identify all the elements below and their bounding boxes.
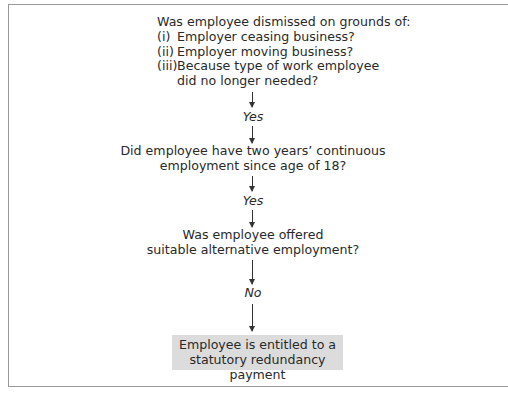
option-1-text: Employer ceasing business? (177, 30, 355, 45)
option-1-number: (i) (157, 30, 177, 45)
down-arrow-icon (252, 92, 253, 107)
question-3-line-2: suitable alternative employment? (0, 243, 506, 258)
result-line-2: statutory redundancy payment (172, 353, 343, 383)
down-arrow-icon (252, 304, 253, 331)
down-arrow-icon (252, 210, 253, 227)
down-arrow-icon (252, 260, 253, 284)
option-3: (iii) Because type of work employee (157, 59, 411, 74)
answer-3-label: No (0, 286, 506, 301)
result-box: Employee is entitled to a statutory redu… (172, 335, 343, 370)
option-3-number: (iii) (157, 59, 177, 74)
answer-1-label: Yes (0, 110, 506, 125)
option-3-continuation: did no longer needed? (177, 74, 318, 89)
option-indent-spacer (157, 74, 177, 89)
question-3-line-1: Was employee offered (0, 228, 506, 243)
answer-2-label: Yes (0, 194, 506, 209)
down-arrow-icon (252, 126, 253, 143)
option-3-continuation-row: did no longer needed? (157, 74, 411, 89)
option-2: (ii) Employer moving business? (157, 45, 411, 60)
option-2-text: Employer moving business? (177, 45, 353, 60)
option-3-text: Because type of work employee (177, 59, 379, 74)
question-1: Was employee dismissed on grounds of: (i… (157, 15, 411, 89)
question-2-line-1: Did employee have two years’ continuous (0, 144, 506, 159)
question-2-line-2: employment since age of 18? (0, 159, 506, 174)
option-2-number: (ii) (157, 45, 177, 60)
down-arrow-icon (252, 176, 253, 191)
result-line-1: Employee is entitled to a (172, 338, 343, 353)
question-1-heading: Was employee dismissed on grounds of: (157, 15, 411, 30)
option-1: (i) Employer ceasing business? (157, 30, 411, 45)
question-2: Did employee have two years’ continuous … (0, 144, 506, 174)
question-3: Was employee offered suitable alternativ… (0, 228, 506, 258)
